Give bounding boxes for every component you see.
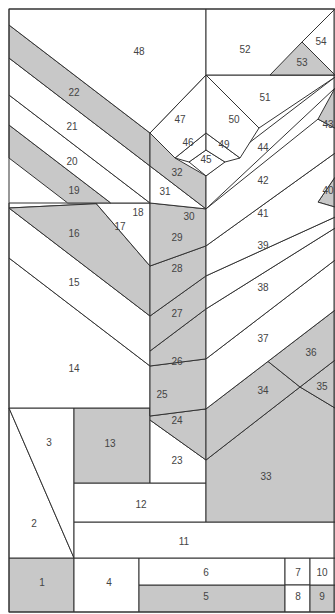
piece-label-33: 33 (260, 471, 272, 482)
piece-label-15: 15 (68, 277, 80, 288)
piece-label-41: 41 (257, 208, 269, 219)
piece-label-54: 54 (315, 36, 327, 47)
piece-label-23: 23 (171, 455, 183, 466)
piece-label-1: 1 (39, 577, 45, 588)
piece-6 (139, 558, 285, 585)
piece-label-5: 5 (203, 591, 209, 602)
piece-label-3: 3 (46, 437, 52, 448)
piece-label-46: 46 (182, 137, 194, 148)
piece-label-38: 38 (257, 282, 269, 293)
piece-label-13: 13 (104, 438, 116, 449)
piece-label-48: 48 (133, 46, 145, 57)
piece-label-27: 27 (171, 308, 183, 319)
piece-label-29: 29 (171, 232, 183, 243)
piece-label-44: 44 (257, 142, 269, 153)
piece-label-21: 21 (66, 121, 78, 132)
piece-label-8: 8 (295, 591, 301, 602)
piece-label-6: 6 (203, 567, 209, 578)
piecing-diagram: 1234567891011121314151617181920212223242… (0, 0, 335, 614)
piece-label-14: 14 (68, 363, 80, 374)
piece-label-4: 4 (106, 577, 112, 588)
piece-label-7: 7 (295, 567, 301, 578)
piece-label-47: 47 (174, 114, 186, 125)
piece-5 (139, 585, 285, 612)
piece-label-24: 24 (171, 415, 183, 426)
piece-label-22: 22 (68, 87, 80, 98)
piece-label-25: 25 (156, 389, 168, 400)
piece-label-31: 31 (159, 186, 171, 197)
piece-label-12: 12 (135, 499, 147, 510)
piece-label-34: 34 (257, 385, 269, 396)
piece-label-18: 18 (132, 207, 144, 218)
piece-label-26: 26 (171, 356, 183, 367)
piece-label-40: 40 (322, 185, 334, 196)
piece-label-30: 30 (183, 211, 195, 222)
piece-label-36: 36 (305, 347, 317, 358)
piece-label-42: 42 (257, 175, 269, 186)
piece-label-19: 19 (68, 185, 80, 196)
piece-label-51: 51 (259, 92, 271, 103)
piece-label-53: 53 (296, 57, 308, 68)
piece-label-43: 43 (322, 119, 334, 130)
piece-label-10: 10 (316, 567, 328, 578)
piece-label-11: 11 (179, 536, 190, 547)
piece-label-50: 50 (228, 114, 240, 125)
piece-label-52: 52 (239, 44, 251, 55)
piece-label-35: 35 (316, 381, 328, 392)
piece-label-39: 39 (257, 240, 269, 251)
piece-11 (74, 522, 335, 558)
piece-label-28: 28 (171, 263, 183, 274)
piece-26 (150, 359, 206, 416)
piece-label-9: 9 (319, 591, 325, 602)
piece-label-45: 45 (200, 154, 212, 165)
piece-label-37: 37 (257, 333, 269, 344)
piece-label-16: 16 (68, 228, 80, 239)
piece-label-2: 2 (31, 518, 37, 529)
piece-label-49: 49 (218, 139, 230, 150)
piece-label-17: 17 (114, 221, 126, 232)
piece-label-20: 20 (66, 156, 78, 167)
piece-label-32: 32 (171, 167, 183, 178)
